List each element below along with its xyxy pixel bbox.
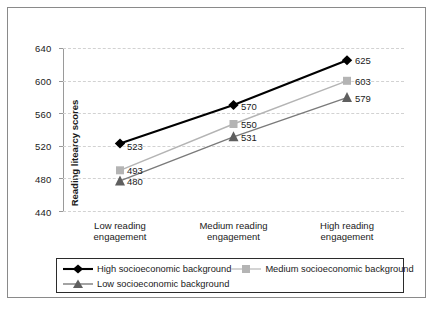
legend-marker-square-icon bbox=[231, 263, 261, 275]
legend-marker-diamond-icon bbox=[63, 263, 93, 275]
chart-legend: High socioeconomic background Medium soc… bbox=[56, 258, 404, 293]
marker-high-ses-0 bbox=[115, 138, 125, 148]
marker-high-ses-1 bbox=[228, 100, 238, 110]
legend-item-high-ses[interactable]: High socioeconomic background bbox=[63, 263, 231, 275]
x-tick-label-low: Low reading engagement bbox=[65, 220, 175, 242]
legend-item-medium-ses[interactable]: Medium socioeconomic background bbox=[231, 263, 413, 275]
x-tick-label-high: High reading engagement bbox=[292, 220, 402, 242]
data-label-high-0: 523 bbox=[127, 141, 143, 152]
x-tick-label-high-line2: engagement bbox=[292, 231, 402, 242]
y-tick-label-640: 640 bbox=[35, 43, 51, 54]
data-label-high-1: 570 bbox=[241, 101, 257, 112]
plot-area: 523 570 625 493 550 603 480 531 579 bbox=[63, 48, 404, 211]
data-label-low-0: 480 bbox=[127, 176, 143, 187]
legend-marker-triangle-icon bbox=[63, 278, 93, 290]
data-label-medium-1: 550 bbox=[241, 119, 257, 130]
marker-medium-ses-0 bbox=[116, 166, 124, 174]
data-label-low-1: 531 bbox=[241, 132, 257, 143]
y-tick-mark-440 bbox=[59, 211, 63, 212]
legend-label-medium-ses: Medium socioeconomic background bbox=[265, 264, 413, 274]
legend-row-1: High socioeconomic background Medium soc… bbox=[63, 263, 397, 278]
legend-label-high-ses: High socioeconomic background bbox=[97, 264, 231, 274]
gridline-440 bbox=[63, 211, 404, 212]
legend-label-low-ses: Low socioeconomic background bbox=[97, 279, 229, 289]
marker-medium-ses-1 bbox=[230, 120, 238, 128]
x-tick-label-low-line2: engagement bbox=[65, 231, 175, 242]
data-label-low-2: 579 bbox=[355, 92, 371, 103]
marker-medium-ses-2 bbox=[343, 77, 351, 85]
x-tick-label-medium-line1: Medium reading bbox=[179, 220, 289, 231]
marker-high-ses-2 bbox=[342, 55, 352, 65]
x-tick-label-low-line1: Low reading bbox=[65, 220, 175, 231]
legend-row-2: Low socioeconomic background bbox=[63, 278, 397, 293]
x-tick-label-medium-line2: engagement bbox=[179, 231, 289, 242]
marker-low-ses-2 bbox=[342, 92, 352, 102]
chart-figure: Reading litearcy scores 640 600 560 520 … bbox=[7, 7, 426, 298]
data-label-medium-2: 603 bbox=[355, 75, 371, 86]
x-tick-label-high-line1: High reading bbox=[292, 220, 402, 231]
marker-low-ses-0 bbox=[115, 175, 125, 185]
data-label-high-2: 625 bbox=[355, 55, 371, 66]
legend-item-low-ses[interactable]: Low socioeconomic background bbox=[63, 278, 259, 290]
series-plot bbox=[63, 48, 404, 211]
x-tick-label-medium: Medium reading engagement bbox=[179, 220, 289, 242]
data-label-medium-0: 493 bbox=[127, 165, 143, 176]
